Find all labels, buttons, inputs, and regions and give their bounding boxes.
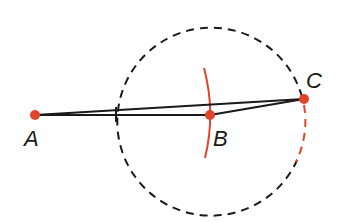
point-a (30, 110, 40, 120)
label-b: B (213, 128, 228, 150)
segment-ac (35, 99, 304, 115)
label-c: C (306, 70, 322, 92)
label-a: A (24, 128, 39, 150)
construction-diagram (0, 0, 339, 223)
point-c (299, 94, 309, 104)
red-dashed-arc (296, 105, 305, 162)
point-b (205, 110, 215, 120)
